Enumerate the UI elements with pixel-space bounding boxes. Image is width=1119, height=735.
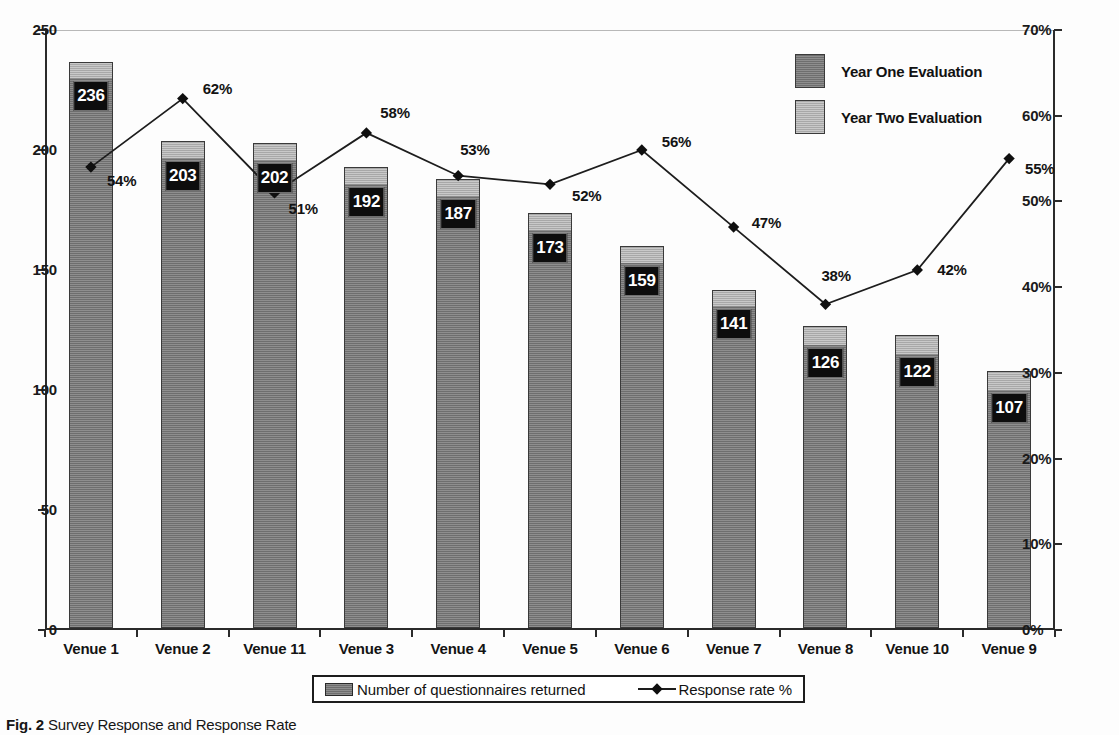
response-rate-point[interactable]: [544, 179, 555, 190]
response-rate-point[interactable]: [453, 170, 464, 181]
chart-legend-bottom: Number of questionnaires returned Respon…: [312, 675, 805, 703]
x-axis-category-label: Venue 4: [431, 640, 486, 657]
x-axis-category-label: Venue 2: [155, 640, 210, 657]
chart-legend-evaluations: Year One Evaluation Year Two Evaluation: [795, 48, 982, 140]
x-axis-category-label: Venue 1: [63, 640, 118, 657]
legend-label-year-one: Year One Evaluation: [841, 63, 982, 80]
x-axis-category-label: Venue 11: [243, 640, 306, 657]
x-axis-category-label: Venue 7: [706, 640, 761, 657]
response-rate-data-label: 38%: [821, 267, 850, 284]
legend-label-response-rate: Response rate %: [679, 681, 793, 698]
legend-item-year-two: Year Two Evaluation: [795, 94, 982, 140]
figure-container: 236203202192187173159141126122107 54%62%…: [0, 0, 1119, 735]
legend-line-marker-icon: [638, 683, 676, 695]
x-axis-category-label: Venue 10: [886, 640, 949, 657]
legend-swatch-year-two-icon: [795, 100, 825, 134]
legend-label-questionnaires: Number of questionnaires returned: [357, 681, 586, 698]
x-tick: [962, 629, 964, 637]
x-axis-category-label: Venue 6: [614, 640, 669, 657]
bar-value-label: 173: [532, 233, 567, 263]
x-axis-category-label: Venue 8: [798, 640, 853, 657]
x-tick: [870, 629, 872, 637]
bar-value-label: 122: [900, 357, 935, 387]
x-axis-category-label: Venue 5: [522, 640, 577, 657]
bar-value-label: 159: [624, 266, 659, 296]
legend-swatch-year-one-icon: [795, 54, 825, 88]
x-tick: [228, 629, 230, 637]
response-rate-data-label: 58%: [380, 104, 409, 121]
response-rate-data-label: 53%: [460, 141, 489, 158]
x-tick: [503, 629, 505, 637]
x-tick: [779, 629, 781, 637]
response-rate-data-label: 54%: [107, 172, 136, 189]
response-rate-data-label: 56%: [662, 133, 691, 150]
figure-caption: Fig. 2 Survey Response and Response Rate: [6, 716, 297, 733]
x-axis-category-label: Venue 3: [339, 640, 394, 657]
x-tick: [136, 629, 138, 637]
legend-swatch-questionnaires-icon: [325, 683, 353, 696]
response-rate-data-label: 51%: [289, 200, 318, 217]
response-rate-data-label: 52%: [572, 187, 601, 204]
bar-value-label: 187: [440, 199, 475, 229]
x-axis-category-label: Venue 9: [981, 640, 1036, 657]
legend-label-year-two: Year Two Evaluation: [841, 109, 982, 126]
legend-item-year-one: Year One Evaluation: [795, 48, 982, 94]
caption-prefix: Fig. 2: [6, 716, 44, 733]
x-tick: [687, 629, 689, 637]
response-rate-data-label: 62%: [203, 80, 232, 97]
bar-value-label: 236: [73, 81, 108, 111]
bar-value-label: 192: [349, 187, 384, 217]
bar-value-label: 203: [165, 161, 200, 191]
bar-value-label: 107: [991, 393, 1026, 423]
x-tick: [319, 629, 321, 637]
bar-value-label: 202: [257, 163, 292, 193]
bar-value-label: 141: [716, 309, 751, 339]
response-rate-data-label: 42%: [937, 261, 966, 278]
response-rate-data-label: 55%: [1025, 160, 1054, 177]
x-tick: [595, 629, 597, 637]
response-rate-point[interactable]: [361, 127, 372, 138]
x-tick: [411, 629, 413, 637]
response-rate-data-label: 47%: [752, 214, 781, 231]
caption-text: Survey Response and Response Rate: [48, 716, 297, 733]
bar-value-label: 126: [808, 348, 843, 378]
